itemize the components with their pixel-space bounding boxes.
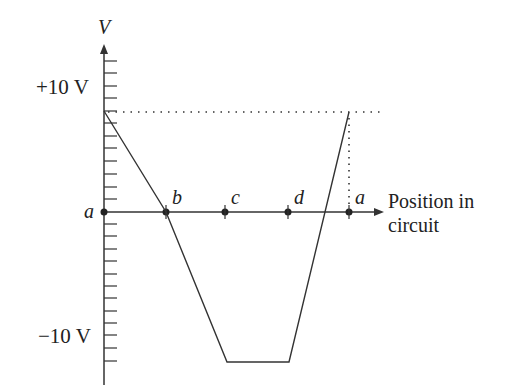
x-axis-label-line2: circuit (388, 214, 440, 236)
x-axis-label-line1: Position in (388, 190, 474, 212)
y-axis-label: V (98, 16, 113, 38)
point-b-label: b (172, 186, 182, 208)
potential-diagram: V +10 V −10 V a b c d a Position in circ… (0, 0, 515, 392)
point-d-label: d (294, 186, 305, 208)
minus-10v-label: −10 V (38, 324, 91, 348)
point-c-label: c (231, 186, 240, 208)
potential-curve (104, 111, 349, 362)
x-axis-arrow-icon (374, 208, 384, 216)
point-a-left-label: a (84, 200, 94, 222)
plus-10v-label: +10 V (36, 75, 89, 99)
point-a-right-label: a (355, 186, 365, 208)
y-axis-arrow-icon (100, 44, 108, 54)
